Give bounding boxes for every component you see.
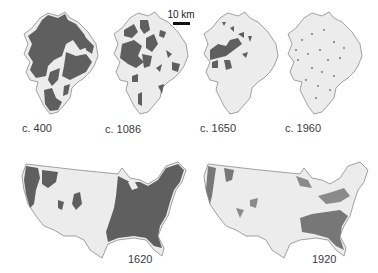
us-map-1920 (200, 160, 372, 260)
region-map-label: c. 400 (22, 122, 52, 134)
us-map-label: 1920 (312, 253, 336, 265)
region-map-c1650 (198, 10, 283, 115)
us-map-1620 (18, 160, 190, 260)
region-map-label: c. 1960 (285, 122, 321, 134)
region-map-label: c. 1650 (200, 122, 236, 134)
region-map-c1960 (282, 10, 367, 115)
region-map-c400 (18, 10, 103, 115)
us-map-label: 1620 (128, 253, 152, 265)
region-map-c1086 (108, 10, 193, 115)
region-map-label: c. 1086 (105, 123, 141, 135)
